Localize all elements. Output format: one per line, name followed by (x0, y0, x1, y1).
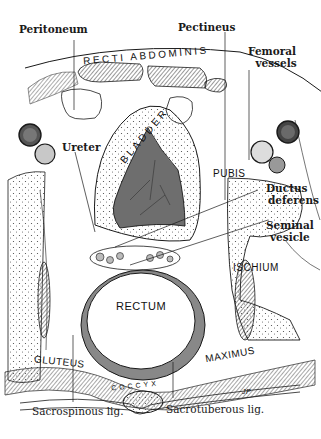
artist-signature: JP (242, 388, 251, 395)
label-pectineus: Pectineus (178, 21, 235, 33)
label-ureter: Ureter (62, 141, 100, 153)
label-peritoneum: Peritoneum (19, 23, 88, 35)
label-seminal-vesicle-line2: vesicle (270, 231, 310, 243)
label-femoral-vessels-line2: vessels (244, 57, 308, 69)
structure-rectum: RECTUM (116, 300, 166, 312)
pelvis-cross-section-diagram: Peritoneum Pectineus Femoral vessels Ure… (0, 0, 321, 439)
label-ductus-deferens-line2: deferens (268, 194, 319, 206)
label-sacrotuberous-lig: Sacrotuberous lig. (166, 403, 264, 415)
label-femoral-vessels-line1: Femoral (240, 45, 304, 57)
label-seminal-vesicle-line1: Seminal (266, 219, 314, 231)
label-ductus-deferens-line1: Ductus (266, 182, 308, 194)
structure-pubis: PUBIS (213, 168, 246, 179)
recti-abdominis-muscle (28, 62, 227, 104)
rectum (81, 270, 205, 380)
label-sacrospinous-lig: Sacrospinous lig. (32, 405, 124, 417)
structure-ischium: ISCHIUM (233, 262, 279, 273)
